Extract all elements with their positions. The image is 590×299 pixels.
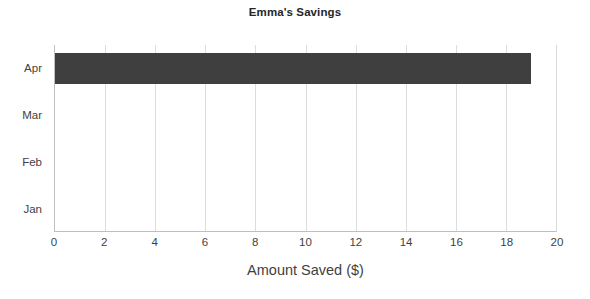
- x-axis-title: Amount Saved ($): [54, 262, 557, 278]
- x-axis-tick-2: 2: [84, 236, 124, 248]
- x-axis-tick-12: 12: [336, 236, 376, 248]
- x-axis-tick-4: 4: [135, 236, 175, 248]
- y-axis-label-apr: Apr: [0, 62, 42, 74]
- chart-title: Emma's Savings: [0, 6, 590, 18]
- y-axis-category-labels: AprMarFebJan: [0, 45, 48, 232]
- bars-layer: [55, 45, 556, 231]
- bar-chart: Emma's Savings AprMarFebJan 024681012141…: [0, 0, 590, 299]
- x-axis-tick-6: 6: [185, 236, 225, 248]
- x-axis-tick-10: 10: [286, 236, 326, 248]
- y-axis-label-mar: Mar: [0, 109, 42, 121]
- y-axis-label-jan: Jan: [0, 203, 42, 215]
- bar-row: [55, 92, 556, 139]
- x-axis-tick-labels: 02468101214161820: [0, 236, 590, 254]
- x-axis-tick-14: 14: [386, 236, 426, 248]
- x-axis-tick-8: 8: [235, 236, 275, 248]
- x-axis-tick-18: 18: [487, 236, 527, 248]
- bar-row: [55, 138, 556, 185]
- plot-area: [54, 45, 557, 232]
- x-axis-tick-16: 16: [436, 236, 476, 248]
- y-axis-label-feb: Feb: [0, 156, 42, 168]
- bar-row: [55, 45, 556, 92]
- bar-row: [55, 185, 556, 232]
- x-axis-tick-20: 20: [537, 236, 577, 248]
- bar-apr[interactable]: [55, 53, 531, 84]
- x-axis-tick-0: 0: [34, 236, 74, 248]
